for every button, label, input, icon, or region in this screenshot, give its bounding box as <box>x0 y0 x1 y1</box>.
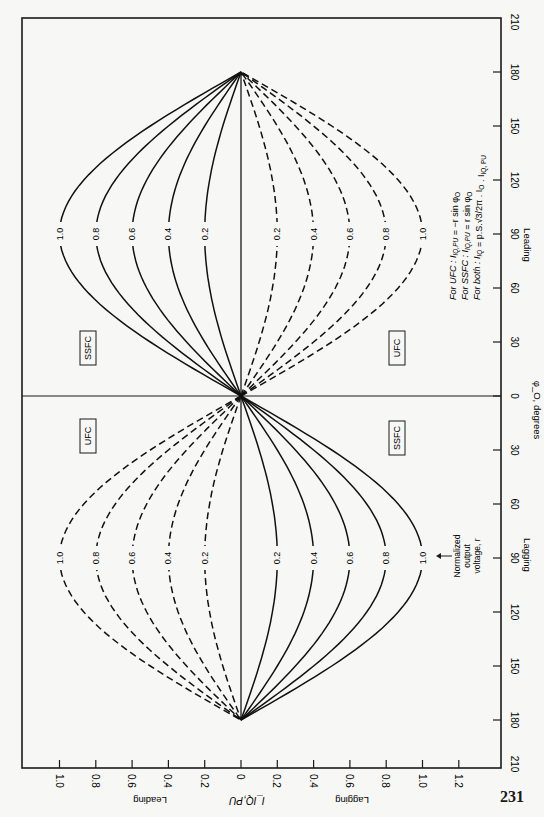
r-note-line3: voltage, r <box>472 538 482 573</box>
current-tick-label: 0.4 <box>162 774 173 788</box>
curve-r-label: 1.0 <box>55 552 65 565</box>
angle-tick-label: 150 <box>509 118 520 135</box>
angle-axis-title: φ_O, degrees <box>532 381 543 440</box>
current-tick-label: 0.8 <box>90 774 101 788</box>
angle-tick-label: 30 <box>509 444 520 456</box>
current-axis: 1.00.80.60.40.200.20.40.60.81.01.2 <box>54 760 464 788</box>
angle-tick-label: 0 <box>509 393 520 399</box>
curve-r-label: 0.4 <box>309 552 319 565</box>
angle-tick-label: 90 <box>509 552 520 564</box>
angle-leading-label: Leading <box>522 228 533 262</box>
svg-text:For both : IIQ = p.S.√3/2π .: For both : IIQ = p.S.√3/2π . IO . IIQ, P… <box>472 155 488 300</box>
angle-tick-label: 210 <box>509 756 520 773</box>
curve-r-label: 0.2 <box>200 552 210 565</box>
ssfc-curve-r0.6 <box>241 72 350 396</box>
region-box-ufc-upper-label: UFC <box>392 338 402 357</box>
current-tick-label: 1.0 <box>417 774 428 788</box>
current-tick-label: 0 <box>235 774 246 780</box>
current-axis-title: I_IQ,PU <box>228 795 264 806</box>
curve-r-label: 0.4 <box>163 552 173 565</box>
curve-r-label: 0.2 <box>200 228 210 241</box>
r-note-line1: Normalized <box>452 534 462 577</box>
angle-lagging-label: Lagging <box>522 538 533 572</box>
page-number: 231 <box>500 788 524 806</box>
angle-tick-label: 180 <box>509 64 520 81</box>
current-tick-label: 0.8 <box>380 774 391 788</box>
current-tick-label: 0.2 <box>271 774 282 788</box>
current-tick-label: 1.0 <box>54 774 65 788</box>
angle-axis: 2101801501209060300306090120150180210 <box>493 14 520 773</box>
region-box-ssfc-upper-label: SSFC <box>83 336 93 361</box>
curve-r-label: 0.2 <box>272 552 282 565</box>
curve-r-label: 0.8 <box>381 228 391 241</box>
current-leading-label: Leading <box>133 795 167 806</box>
region-box-ufc-lower-label: UFC <box>83 426 93 445</box>
curve-r-label: 1.0 <box>55 228 65 241</box>
current-tick-label: 0.4 <box>308 774 319 788</box>
curve-r-label: 0.6 <box>345 552 355 565</box>
angle-tick-label: 180 <box>509 712 520 729</box>
curve-r-label: 0.8 <box>91 552 101 565</box>
curve-r-label: 1.0 <box>418 228 428 241</box>
angle-tick-label: 210 <box>509 14 520 31</box>
current-tick-label: 1.2 <box>453 774 464 788</box>
curve-r-label: 0.6 <box>345 228 355 241</box>
curve-r-label: 0.4 <box>163 228 173 241</box>
curve-r-label: 0.4 <box>309 228 319 241</box>
ssfc-curve-r0.6 <box>132 396 241 720</box>
region-box-ssfc-lower-label: SSFC <box>392 426 402 451</box>
current-tick-label: 0.2 <box>199 774 210 788</box>
angle-tick-label: 60 <box>509 498 520 510</box>
arrow-head-icon <box>436 553 441 559</box>
r-note-line2: output <box>462 544 472 568</box>
curve-r-label: 0.8 <box>91 228 101 241</box>
curve-r-label: 0.6 <box>127 228 137 241</box>
angle-tick-label: 30 <box>509 336 520 348</box>
angle-tick-label: 90 <box>509 228 520 240</box>
angle-tick-label: 150 <box>509 658 520 675</box>
curve-r-label: 0.2 <box>272 228 282 241</box>
angle-tick-label: 120 <box>509 604 520 621</box>
angle-tick-label: 60 <box>509 282 520 294</box>
curve-r-label: 0.6 <box>127 552 137 565</box>
formula-block: For UFC : IIQ,PU = −r sin φOFor SSFC : I… <box>448 155 488 300</box>
current-tick-label: 0.6 <box>344 774 355 788</box>
angle-tick-label: 120 <box>509 172 520 189</box>
current-lagging-label: Lagging <box>335 795 369 806</box>
current-tick-label: 0.6 <box>126 774 137 788</box>
chart-svg: 1.00.80.60.40.200.20.40.60.81.01.2Leadin… <box>0 0 544 817</box>
curve-r-label: 1.0 <box>418 552 428 565</box>
curve-r-label: 0.8 <box>381 552 391 565</box>
